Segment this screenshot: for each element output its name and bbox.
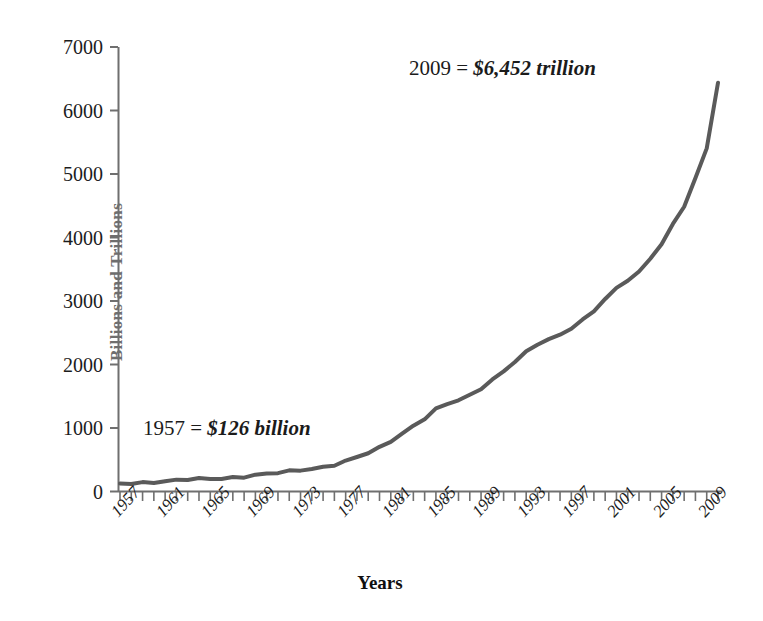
annotation-start-prefix: 1957 =	[143, 416, 207, 440]
x-axis-title: Years	[250, 572, 510, 594]
annotation-end-amount: $6,452 trillion	[473, 56, 596, 80]
annotation-end-value: 2009 = $6,452 trillion	[409, 56, 596, 81]
annotation-end-prefix: 2009 =	[409, 56, 473, 80]
y-tick-label: 4000	[25, 226, 103, 249]
y-tick-label: 3000	[25, 290, 103, 313]
y-tick-label: 5000	[25, 163, 103, 186]
y-tick-label: 0	[25, 480, 103, 503]
annotation-start-amount: $126 billion	[207, 416, 310, 440]
y-tick-label: 2000	[25, 353, 103, 376]
y-axis-title: Billions and Trillions	[107, 162, 127, 402]
y-tick-label: 7000	[25, 36, 103, 59]
y-tick-label: 6000	[25, 99, 103, 122]
annotation-start-value: 1957 = $126 billion	[143, 416, 311, 441]
chart-container: 01000200030004000500060007000 1957196119…	[0, 0, 763, 621]
y-tick-label: 1000	[25, 417, 103, 440]
